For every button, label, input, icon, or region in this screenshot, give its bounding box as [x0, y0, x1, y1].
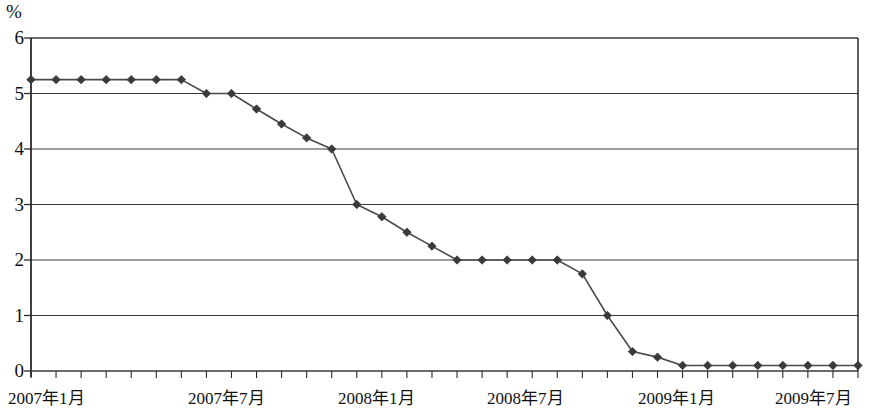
data-point-marker: [804, 361, 812, 369]
data-point-marker: [553, 256, 561, 264]
plot-frame: [31, 38, 858, 377]
data-point-marker: [703, 361, 711, 369]
data-point-marker: [403, 228, 411, 236]
data-point-marker: [277, 120, 285, 128]
data-series-line: [31, 80, 858, 366]
data-point-marker: [829, 361, 837, 369]
x-axis-ticks-group: [31, 371, 858, 378]
data-point-marker: [252, 105, 260, 113]
data-point-marker: [503, 256, 511, 264]
gridlines-group: [31, 38, 858, 371]
data-point-marker: [428, 242, 436, 250]
data-point-marker: [578, 270, 586, 278]
data-point-marker: [854, 361, 862, 369]
data-point-marker: [754, 361, 762, 369]
data-point-marker: [678, 361, 686, 369]
line-chart-plot: [0, 0, 874, 420]
data-point-marker: [779, 361, 787, 369]
data-point-marker: [728, 361, 736, 369]
chart-container: % 0123456 2007年1月2007年7月2008年1月2008年7月20…: [0, 0, 874, 420]
data-point-marker: [77, 75, 85, 83]
y-axis-ticks-group: [24, 38, 31, 371]
data-point-marker: [478, 256, 486, 264]
data-point-marker: [177, 75, 185, 83]
data-point-marker: [528, 256, 536, 264]
data-point-marker: [378, 213, 386, 221]
data-point-marker: [453, 256, 461, 264]
data-point-markers-group: [27, 75, 862, 369]
data-point-marker: [52, 75, 60, 83]
data-point-marker: [653, 353, 661, 361]
data-point-marker: [202, 89, 210, 97]
data-point-marker: [353, 200, 361, 208]
data-point-marker: [227, 89, 235, 97]
data-point-marker: [27, 75, 35, 83]
data-point-marker: [302, 134, 310, 142]
data-point-marker: [127, 75, 135, 83]
data-point-marker: [152, 75, 160, 83]
data-point-marker: [102, 75, 110, 83]
data-point-marker: [328, 145, 336, 153]
